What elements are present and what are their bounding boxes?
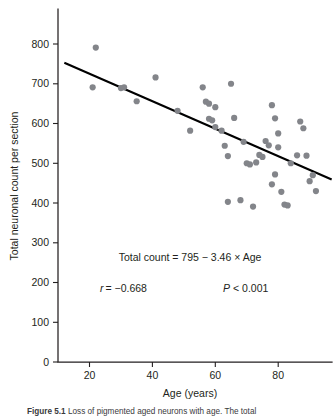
pvalue-symbol: P — [223, 282, 230, 294]
correlation-symbol: r — [100, 282, 104, 294]
data-point — [212, 124, 218, 130]
data-point — [297, 118, 303, 124]
y-tick-label: 200 — [31, 276, 49, 288]
y-tick-label: 600 — [31, 117, 49, 129]
pvalue-value: < 0.001 — [233, 282, 268, 294]
y-tick-label: 300 — [31, 236, 49, 248]
y-tick-label: 100 — [31, 316, 49, 328]
figure-caption-body: Loss of pigmented aged neurons with age.… — [68, 407, 256, 416]
x-tick-label: 20 — [84, 369, 96, 381]
data-point — [121, 84, 127, 90]
data-point — [174, 108, 180, 114]
data-point — [225, 199, 231, 205]
data-point — [269, 102, 275, 108]
data-point — [206, 101, 212, 107]
data-point — [275, 130, 281, 136]
data-point — [259, 154, 265, 160]
data-point — [250, 203, 256, 209]
y-axis-tick-labels: 0 100 200 300 400 500 600 700 800 — [31, 38, 49, 368]
x-tick-label: 60 — [209, 369, 221, 381]
data-point — [269, 181, 275, 187]
figure-caption-label: Figure 5.1 — [27, 407, 66, 416]
regression-equation-annotation: Total count = 795 − 3.46 × Age — [119, 251, 262, 263]
data-point — [266, 142, 272, 148]
data-point — [228, 81, 234, 87]
data-point — [288, 160, 294, 166]
data-point — [272, 171, 278, 177]
pvalue-annotation: P< 0.001 — [223, 282, 269, 294]
data-point — [294, 152, 300, 158]
data-point — [134, 98, 140, 104]
y-tick-label: 500 — [31, 157, 49, 169]
data-point — [253, 159, 259, 165]
scatter-points — [90, 44, 320, 209]
y-tick-label: 800 — [31, 38, 49, 50]
x-axis-title: Age (years) — [163, 387, 217, 399]
data-point — [222, 143, 228, 149]
figure-caption: Figure 5.1 Loss of pigmented aged neuron… — [0, 400, 335, 417]
data-point — [152, 74, 158, 80]
axis-spine — [58, 9, 332, 362]
y-tick-label: 400 — [31, 197, 49, 209]
figure-caption-text: Figure 5.1 Loss of pigmented aged neuron… — [27, 407, 317, 417]
data-point — [187, 128, 193, 134]
data-point — [303, 153, 309, 159]
figure-container: 0 100 200 300 400 500 600 700 800 20 40 — [0, 0, 335, 417]
data-point — [275, 144, 281, 150]
data-point — [272, 115, 278, 121]
data-point — [93, 44, 99, 50]
x-tick-label: 80 — [272, 369, 284, 381]
y-tick-label: 700 — [31, 77, 49, 89]
data-point — [212, 104, 218, 110]
data-point — [247, 161, 253, 167]
x-tick-label: 40 — [147, 369, 159, 381]
y-tick-label: 0 — [43, 356, 49, 368]
y-axis-title: Total neuronal count per section — [8, 111, 20, 260]
correlation-value: = −0.668 — [106, 282, 148, 294]
data-point — [231, 115, 237, 121]
correlation-annotation: r= −0.668 — [100, 282, 147, 294]
y-axis-ticks — [53, 44, 58, 362]
data-point — [278, 189, 284, 195]
x-axis-tick-labels: 20 40 60 80 — [84, 369, 285, 381]
x-axis-ticks — [90, 362, 279, 367]
data-point — [90, 84, 96, 90]
plot-canvas: 0 100 200 300 400 500 600 700 800 20 40 — [0, 0, 335, 400]
data-point — [209, 117, 215, 123]
scatter-plot: 0 100 200 300 400 500 600 700 800 20 40 — [0, 0, 335, 400]
data-point — [241, 139, 247, 145]
data-point — [218, 128, 224, 134]
data-point — [313, 188, 319, 194]
data-point — [300, 125, 306, 131]
data-point — [225, 153, 231, 159]
data-point — [310, 172, 316, 178]
data-point — [285, 202, 291, 208]
data-point — [200, 84, 206, 90]
data-point — [237, 197, 243, 203]
data-point — [307, 178, 313, 184]
